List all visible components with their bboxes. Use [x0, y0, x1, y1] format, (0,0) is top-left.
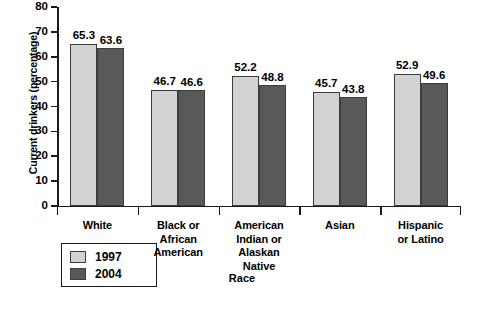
x-axis-tick-mark [380, 207, 381, 215]
bar-chart-figure: Current drinkers (percentage) 8070605040… [0, 0, 484, 309]
x-axis-tick-mark [299, 207, 300, 215]
x-axis-category-label: Hispanicor Latino [380, 219, 461, 246]
bar-value-label: 43.8 [336, 84, 371, 96]
x-axis-tick-mark [138, 207, 139, 215]
bar-1997-2[interactable] [232, 76, 259, 206]
x-axis-category-line: Alaskan [219, 246, 300, 260]
bar-1997-4[interactable] [394, 74, 421, 206]
y-axis-tick-mark [51, 131, 57, 133]
y-axis-tick-label: 10 [28, 175, 48, 187]
bar-1997-1[interactable] [151, 90, 178, 206]
bar-1997-0[interactable] [70, 44, 97, 206]
y-axis-tick-mark [51, 56, 57, 58]
y-axis-tick-label: 40 [28, 101, 48, 113]
x-axis-category-line: or Latino [380, 233, 461, 247]
bar-2004-4[interactable] [421, 83, 448, 206]
y-axis-tick-label: 30 [28, 125, 48, 137]
legend-swatch-1997-icon [70, 251, 86, 263]
y-axis-tick-label: 50 [28, 76, 48, 88]
y-axis-tick-label: 0 [28, 200, 48, 212]
bar-2004-2[interactable] [259, 85, 286, 206]
y-axis-tick-mark [51, 180, 57, 182]
x-axis-category-label: White [57, 219, 138, 233]
x-axis-category-line: White [57, 219, 138, 233]
x-axis-category-line: Black or [138, 219, 219, 233]
x-axis-category-label: Asian [299, 219, 380, 233]
bar-2004-1[interactable] [178, 90, 205, 206]
x-axis-category-line: African [138, 233, 219, 247]
x-axis-category-line: American [219, 219, 300, 233]
bar-2004-3[interactable] [340, 97, 367, 206]
legend-swatch-2004-icon [70, 268, 86, 280]
y-axis-tick-label: 60 [28, 51, 48, 63]
y-axis-tick-mark [51, 81, 57, 83]
y-axis-tick-mark [51, 155, 57, 157]
x-axis-category-line: Hispanic [380, 219, 461, 233]
legend-item-2004[interactable]: 2004 [70, 265, 156, 282]
x-axis-category-line: Asian [299, 219, 380, 233]
y-axis-tick-labels: 80706050403020100 [24, 0, 48, 309]
bar-value-label: 63.6 [93, 35, 128, 47]
y-axis-tick-mark [51, 6, 57, 8]
bar-2004-0[interactable] [97, 48, 124, 206]
y-axis-tick-label: 20 [28, 150, 48, 162]
legend-label-1997: 1997 [95, 251, 122, 263]
legend-label-2004: 2004 [95, 268, 122, 280]
x-axis-category-label: AmericanIndian orAlaskanNative [219, 219, 300, 273]
x-axis-right-cap [460, 206, 462, 215]
y-axis-tick-label: 70 [28, 26, 48, 38]
x-axis-tick-mark [219, 207, 220, 215]
x-axis-tick-mark [57, 207, 58, 215]
bar-value-label: 46.6 [174, 77, 209, 89]
bar-value-label: 49.6 [417, 70, 452, 82]
bar-value-label: 48.8 [255, 72, 290, 84]
x-axis-category-line: Indian or [219, 233, 300, 247]
y-axis-tick-label: 80 [28, 1, 48, 13]
x-axis-category-line: Native [219, 260, 300, 274]
y-axis-tick-mark [51, 106, 57, 108]
bar-1997-3[interactable] [313, 92, 340, 206]
x-axis-category-label: Black orAfricanAmerican [138, 219, 219, 260]
y-axis-tick-mark [51, 31, 57, 33]
x-axis-category-line: American [138, 246, 219, 260]
